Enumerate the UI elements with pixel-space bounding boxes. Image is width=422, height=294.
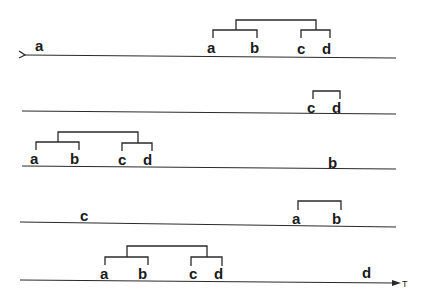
axis-arrow-icon (392, 280, 401, 286)
leaf-label: d (332, 99, 341, 116)
timeline-row-2: c d (22, 91, 396, 116)
leaf-label: d (143, 151, 152, 168)
merge-tree: a b c d (207, 20, 331, 57)
event-label: d (362, 264, 371, 281)
leaf-label: a (100, 265, 109, 282)
event-label: c (80, 207, 88, 224)
bracket-ab (298, 201, 341, 210)
event-label: a (35, 37, 44, 54)
bracket-ab (213, 30, 257, 38)
bracket-cd (301, 30, 330, 38)
leaf-label: b (138, 265, 147, 282)
merge-tree: a b (292, 201, 341, 227)
timeline-row-4: c a b (20, 201, 396, 227)
bracket-cd (313, 91, 340, 99)
bracket-root (236, 20, 316, 30)
leaf-label: c (297, 40, 305, 57)
bracket-root (127, 246, 207, 257)
leaf-label: b (70, 150, 79, 167)
timeline-row-5: T d a b c d (20, 246, 408, 289)
timeline-row-1: a a b c d (19, 20, 396, 58)
leaf-label: a (292, 210, 301, 227)
leaf-label: a (30, 150, 39, 167)
timeline-axis (20, 280, 394, 283)
bracket-ab (105, 257, 148, 265)
leaf-label: d (322, 40, 331, 57)
timeline-diagram: a a b c d c d b a b c d (0, 0, 422, 294)
timeline-row-3: b a b c d (22, 132, 396, 171)
leaf-label: c (307, 99, 315, 116)
leaf-label: c (118, 151, 126, 168)
leaf-label: a (207, 39, 216, 56)
event-label: b (328, 154, 337, 171)
leaf-label: c (189, 265, 197, 282)
bracket-ab (36, 142, 79, 150)
axis-label-t: T (402, 279, 408, 289)
leaf-label: d (214, 265, 223, 282)
leaf-label: b (250, 39, 259, 56)
bracket-cd (122, 143, 152, 151)
merge-tree: a b c d (100, 246, 223, 282)
merge-tree: c d (307, 91, 341, 116)
merge-tree: a b c d (30, 132, 152, 168)
leaf-label: b (332, 210, 341, 227)
